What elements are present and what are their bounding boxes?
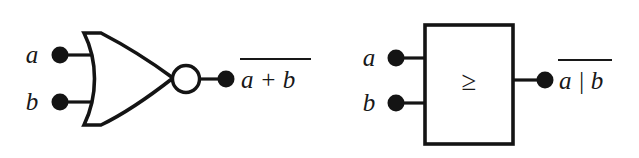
terminal-dot-output — [218, 71, 235, 88]
gate-nor-rectangular: ≥ a b a | b — [363, 25, 612, 144]
logic-gate-diagram: a b a + b ≥ a b — [0, 0, 639, 158]
label-output-expression-group: a | b — [558, 60, 612, 94]
label-output-expression-group: a + b — [240, 59, 311, 93]
terminal-dot-input-b — [388, 95, 405, 112]
terminal-dot-input-a — [52, 47, 69, 64]
threshold-symbol: ≥ — [462, 66, 477, 96]
label-input-b: b — [363, 89, 376, 116]
terminal-dot-output — [537, 72, 554, 89]
label-output-expression: a + b — [241, 66, 295, 93]
inversion-bubble-icon — [173, 66, 200, 93]
terminal-dot-input-b — [52, 94, 69, 111]
label-input-a: a — [26, 41, 39, 68]
gate-nor-distinctive: a b a + b — [26, 33, 311, 125]
label-input-a: a — [363, 44, 376, 71]
label-input-b: b — [26, 88, 39, 115]
diagram-canvas: a b a + b ≥ a b — [0, 0, 639, 158]
or-gate-body — [84, 33, 173, 125]
label-output-expression: a | b — [559, 67, 603, 94]
terminal-dot-input-a — [388, 50, 405, 67]
